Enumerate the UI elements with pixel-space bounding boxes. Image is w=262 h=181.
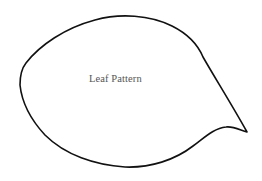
- leaf-outline-icon: [0, 0, 262, 181]
- leaf-pattern-figure: Leaf Pattern: [0, 0, 262, 181]
- leaf-label: Leaf Pattern: [89, 73, 142, 84]
